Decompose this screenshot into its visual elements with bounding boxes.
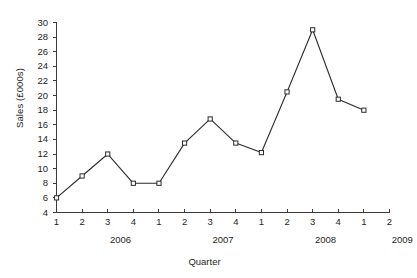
x-tick-label: 1 <box>149 216 169 227</box>
x-axis-title: Quarter <box>0 256 409 267</box>
x-axis-year-label: 2007 <box>198 234 248 245</box>
x-tick-label: 2 <box>277 216 297 227</box>
x-tick-label: 1 <box>47 216 67 227</box>
x-tick-label: 4 <box>123 216 143 227</box>
x-axis-year-label: 2006 <box>96 234 146 245</box>
x-tick-label: 3 <box>303 216 323 227</box>
x-tick-label: 3 <box>98 216 118 227</box>
x-axis-year-label: 2008 <box>300 234 350 245</box>
x-tick-label: 3 <box>200 216 220 227</box>
x-tick-label: 1 <box>251 216 271 227</box>
x-tick-label: 2 <box>380 216 400 227</box>
x-tick-label: 4 <box>226 216 246 227</box>
x-tick-label: 2 <box>72 216 92 227</box>
x-tick-label: 1 <box>354 216 374 227</box>
x-tick-label: 4 <box>328 216 348 227</box>
x-axis-year-label: 2009 <box>377 234 417 245</box>
x-tick-label: 2 <box>175 216 195 227</box>
y-axis-title: Sales (£000s) <box>14 18 30 178</box>
